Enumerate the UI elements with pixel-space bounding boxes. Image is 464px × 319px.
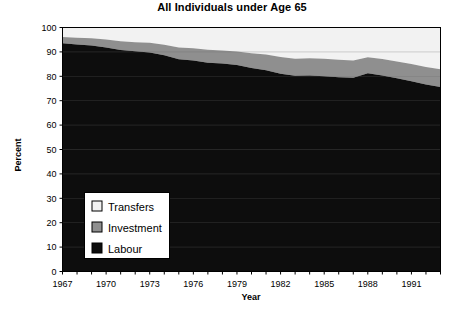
y-tick-label-0: 0 bbox=[51, 267, 56, 277]
y-tick-label-40: 40 bbox=[46, 169, 56, 179]
y-tick-label-10: 10 bbox=[46, 242, 56, 252]
chart-container: All Individuals under Age 65 01020304050… bbox=[0, 0, 464, 319]
x-tick-label-1985: 1985 bbox=[314, 279, 334, 289]
y-tick-label-70: 70 bbox=[46, 96, 56, 106]
y-axis-title: Percent bbox=[13, 138, 23, 171]
y-tick-label-90: 90 bbox=[46, 47, 56, 57]
x-tick-label-1976: 1976 bbox=[183, 279, 203, 289]
y-tick-label-60: 60 bbox=[46, 120, 56, 130]
legend-label-labour: Labour bbox=[108, 243, 143, 255]
y-axis-labels-group: 0102030405060708090100 bbox=[41, 23, 56, 277]
y-tick-label-20: 20 bbox=[46, 218, 56, 228]
legend-swatch-labour bbox=[92, 243, 102, 253]
x-tick-label-1979: 1979 bbox=[227, 279, 247, 289]
x-tick-label-1988: 1988 bbox=[358, 279, 378, 289]
legend-label-investment: Investment bbox=[108, 222, 162, 234]
legend-label-transfers: Transfers bbox=[108, 201, 155, 213]
x-tick-label-1973: 1973 bbox=[140, 279, 160, 289]
y-tick-label-80: 80 bbox=[46, 72, 56, 82]
legend-swatch-transfers bbox=[92, 201, 102, 211]
x-tick-label-1970: 1970 bbox=[96, 279, 116, 289]
stacked-area-chart: 0102030405060708090100 19671970197319761… bbox=[0, 0, 464, 319]
chart-legend: TransfersInvestmentLabour bbox=[85, 193, 170, 259]
legend-swatch-investment bbox=[92, 222, 102, 232]
x-tick-label-1991: 1991 bbox=[401, 279, 421, 289]
x-axis-labels-group: 196719701973197619791982198519881991 bbox=[52, 279, 421, 289]
x-tick-label-1982: 1982 bbox=[271, 279, 291, 289]
x-axis-title: Year bbox=[241, 292, 261, 302]
y-tick-label-30: 30 bbox=[46, 194, 56, 204]
x-tick-label-1967: 1967 bbox=[52, 279, 72, 289]
y-tick-label-100: 100 bbox=[41, 23, 56, 33]
y-tick-label-50: 50 bbox=[46, 145, 56, 155]
